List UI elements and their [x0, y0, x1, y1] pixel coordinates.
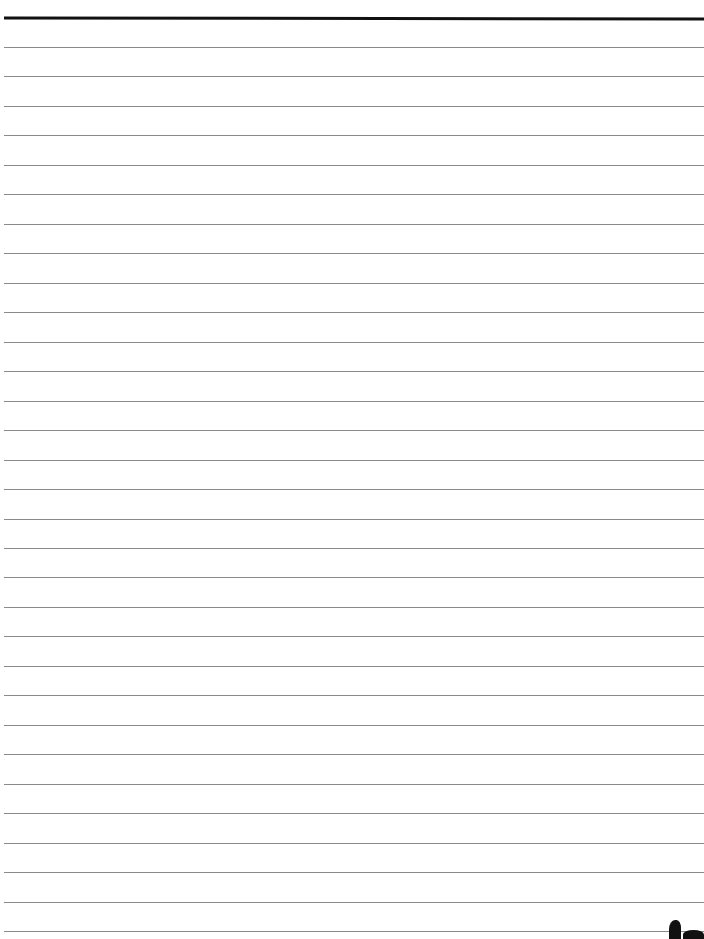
ruled-line — [4, 224, 704, 225]
ruled-line — [4, 636, 704, 637]
ruled-line — [4, 194, 704, 195]
ruled-line — [4, 902, 704, 903]
ruled-line — [4, 754, 704, 755]
ruled-line — [4, 430, 704, 431]
ruled-line — [4, 106, 704, 107]
ruled-line — [4, 548, 704, 549]
ruled-line — [4, 135, 704, 136]
ruled-line — [4, 931, 704, 932]
ruled-line — [4, 666, 704, 667]
corner-mark — [669, 920, 681, 939]
ruled-line — [4, 519, 704, 520]
ruled-line — [4, 695, 704, 696]
ruled-line — [4, 577, 704, 578]
ruled-line — [4, 813, 704, 814]
ruled-line — [4, 401, 704, 402]
ruled-line — [4, 371, 704, 372]
ruled-line — [4, 283, 704, 284]
corner-mark-tail — [683, 930, 704, 939]
top-rule — [4, 17, 704, 21]
ruled-line — [4, 460, 704, 461]
ruled-line — [4, 165, 704, 166]
ruled-line — [4, 607, 704, 608]
ruled-line — [4, 784, 704, 785]
ruled-line — [4, 725, 704, 726]
ruled-line — [4, 489, 704, 490]
ruled-line — [4, 872, 704, 873]
ruled-line — [4, 76, 704, 77]
ruled-line — [4, 342, 704, 343]
ruled-line — [4, 312, 704, 313]
ruled-line — [4, 253, 704, 254]
ruled-line — [4, 843, 704, 844]
ruled-line — [4, 47, 704, 48]
